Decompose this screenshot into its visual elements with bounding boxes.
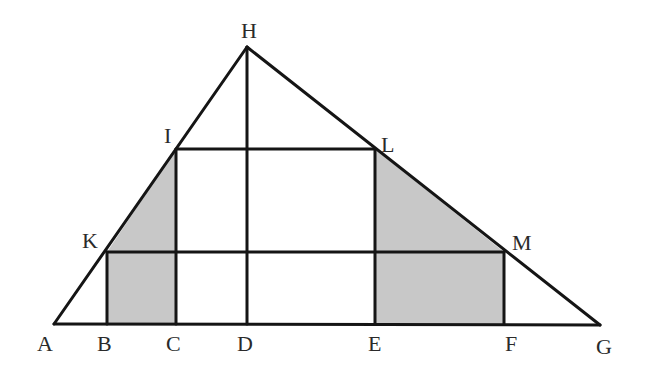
point-label-l: L (381, 132, 394, 157)
geometry-diagram: HILKMABCDEFG (0, 0, 645, 376)
point-label-a: A (37, 331, 53, 356)
point-label-e: E (368, 331, 381, 356)
point-label-m: M (512, 230, 532, 255)
point-label-f: F (505, 331, 517, 356)
point-label-h: H (241, 18, 257, 43)
shaded-region-lmfe (375, 149, 504, 324)
point-label-i: I (164, 123, 171, 148)
point-label-b: B (97, 331, 112, 356)
point-label-k: K (82, 228, 98, 253)
segment-ag (54, 324, 600, 325)
point-label-d: D (237, 331, 253, 356)
shaded-region-kicb (107, 149, 176, 324)
shaded-regions (107, 149, 504, 324)
point-label-c: C (166, 331, 181, 356)
point-label-g: G (596, 334, 612, 359)
